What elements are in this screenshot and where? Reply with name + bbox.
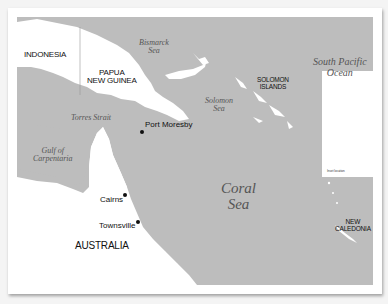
cape-york bbox=[89, 127, 127, 191]
label-indonesia: INDONESIA bbox=[24, 51, 66, 59]
label-south-pacific-ocean: South Pacific Ocean bbox=[313, 57, 367, 78]
map-frame: Inset location INDONESIA PAPUA NEW GUINE… bbox=[8, 8, 382, 294]
label-cairns: Cairns bbox=[100, 196, 123, 204]
label-torres-strait: Torres Strait bbox=[71, 114, 111, 122]
label-australia: AUSTRALIA bbox=[75, 241, 129, 252]
inset-box bbox=[322, 71, 373, 177]
inset-caption: Inset location bbox=[327, 169, 345, 173]
label-townsville: Townsville bbox=[99, 222, 135, 230]
new-ireland bbox=[193, 53, 209, 65]
label-solomon-islands: SOLOMON ISLANDS bbox=[257, 77, 289, 91]
map-canvas: Inset location INDONESIA PAPUA NEW GUINE… bbox=[17, 17, 373, 285]
label-coral-sea: Coral Sea bbox=[221, 181, 256, 213]
label-port-moresby: Port Moresby bbox=[145, 121, 193, 129]
label-new-caledonia: NEW CALEDONIA bbox=[335, 219, 371, 233]
label-papua-new-guinea: PAPUA NEW GUINEA bbox=[87, 69, 137, 86]
city-marker-port-moresby bbox=[140, 130, 144, 134]
city-marker-cairns bbox=[123, 193, 127, 197]
label-gulf-of-carpentaria: Gulf of Carpentaria bbox=[33, 147, 73, 164]
label-bismarck-sea: Bismarck Sea bbox=[139, 39, 169, 56]
city-marker-townsville bbox=[136, 220, 140, 224]
label-solomon-sea: Solomon Sea bbox=[205, 97, 233, 114]
